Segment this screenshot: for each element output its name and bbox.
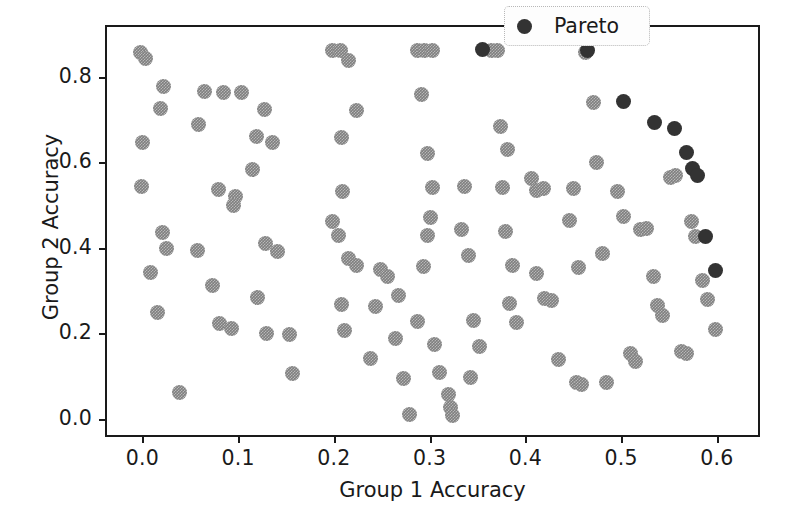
data-point	[490, 43, 505, 58]
x-tick-label: 0.3	[395, 446, 465, 470]
y-tick-mark	[99, 333, 105, 335]
legend-marker-pareto-icon	[517, 19, 532, 34]
data-point-pareto	[708, 263, 723, 278]
data-point	[599, 375, 614, 390]
data-point	[423, 210, 438, 225]
data-point	[420, 228, 435, 243]
data-point	[536, 181, 551, 196]
data-point	[416, 259, 431, 274]
data-point	[420, 146, 435, 161]
data-point	[595, 246, 610, 261]
data-point	[334, 130, 349, 145]
x-tick-label: 0.4	[490, 446, 560, 470]
data-point	[331, 228, 346, 243]
x-tick-mark	[430, 437, 432, 443]
data-point	[432, 365, 447, 380]
x-tick-mark	[717, 437, 719, 443]
y-tick-mark	[99, 77, 105, 79]
data-point	[363, 351, 378, 366]
data-point	[445, 408, 460, 423]
legend-label-pareto: Pareto	[532, 14, 649, 38]
data-point	[655, 308, 670, 323]
data-point	[138, 51, 153, 66]
data-point	[646, 269, 661, 284]
data-point	[502, 296, 517, 311]
data-point	[410, 314, 425, 329]
data-point	[708, 322, 723, 337]
data-point	[257, 102, 272, 117]
data-point	[334, 297, 349, 312]
data-point	[153, 101, 168, 116]
data-point	[472, 339, 487, 354]
data-point	[427, 337, 442, 352]
data-point	[498, 224, 513, 239]
x-tick-mark	[525, 437, 527, 443]
data-point	[325, 214, 340, 229]
x-tick-label: 0.6	[682, 446, 752, 470]
data-point	[402, 407, 417, 422]
data-point	[143, 265, 158, 280]
data-point	[388, 331, 403, 346]
data-point	[495, 180, 510, 195]
data-point	[265, 135, 280, 150]
data-point	[574, 377, 589, 392]
data-point	[461, 248, 476, 263]
x-tick-mark	[238, 437, 240, 443]
plot-data-area	[107, 27, 758, 435]
data-point	[380, 269, 395, 284]
data-point	[156, 79, 171, 94]
plot-axes-frame	[105, 25, 760, 437]
data-point-pareto	[698, 229, 713, 244]
data-point	[425, 43, 440, 58]
data-point	[190, 243, 205, 258]
x-tick-label: 0.2	[299, 446, 369, 470]
x-tick-mark	[621, 437, 623, 443]
x-tick-mark	[142, 437, 144, 443]
data-point	[586, 95, 601, 110]
y-tick-mark	[99, 419, 105, 421]
data-point	[337, 323, 352, 338]
data-point	[349, 258, 364, 273]
data-point	[197, 84, 212, 99]
data-point	[259, 326, 274, 341]
data-point	[679, 346, 694, 361]
data-point	[500, 142, 515, 157]
data-point	[454, 222, 469, 237]
data-point	[135, 135, 150, 150]
data-point	[134, 179, 149, 194]
data-point-pareto	[679, 145, 694, 160]
data-point	[335, 184, 350, 199]
data-point	[191, 117, 206, 132]
y-tick-mark	[99, 162, 105, 164]
data-point	[466, 313, 481, 328]
data-point	[172, 385, 187, 400]
data-point	[391, 288, 406, 303]
y-axis-label: Group 2 Accuracy	[39, 21, 63, 433]
data-point	[282, 327, 297, 342]
data-point-pareto	[475, 42, 490, 57]
data-point	[628, 354, 643, 369]
data-point	[270, 244, 285, 259]
data-point	[285, 366, 300, 381]
data-point	[226, 198, 241, 213]
data-point	[368, 299, 383, 314]
data-point	[505, 258, 520, 273]
data-point-pareto	[690, 168, 705, 183]
legend[interactable]: Pareto	[504, 6, 650, 46]
data-point	[571, 260, 586, 275]
x-tick-label: 0.0	[107, 446, 177, 470]
data-point	[150, 305, 165, 320]
data-point	[224, 321, 239, 336]
data-point	[566, 181, 581, 196]
data-point	[610, 184, 625, 199]
data-point	[245, 162, 260, 177]
data-point	[493, 119, 508, 134]
data-point	[211, 182, 226, 197]
data-point	[205, 278, 220, 293]
data-point	[589, 155, 604, 170]
data-point	[668, 168, 683, 183]
data-point	[216, 85, 231, 100]
data-point	[155, 225, 170, 240]
data-point	[695, 273, 710, 288]
data-point	[349, 103, 364, 118]
